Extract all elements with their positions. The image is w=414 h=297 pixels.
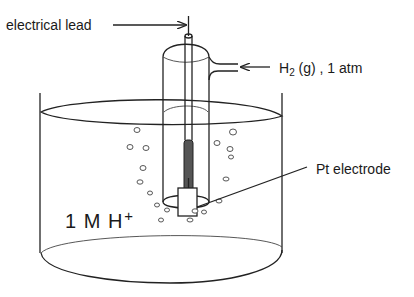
beaker (40, 93, 282, 283)
hydrogen-electrode-diagram (0, 0, 414, 297)
electrical-lead-tube (184, 16, 193, 192)
liquid-surface (41, 100, 282, 125)
pt-electrode-leader (197, 167, 307, 207)
solution-concentration-label: 1 M H+ (65, 208, 134, 231)
electrical-lead-label: electrical lead (6, 18, 92, 32)
glass-tube (163, 44, 238, 208)
pt-electrode-label: Pt electrode (316, 162, 391, 176)
h2-gas-label: H2 (g) , 1 atm (279, 61, 362, 78)
